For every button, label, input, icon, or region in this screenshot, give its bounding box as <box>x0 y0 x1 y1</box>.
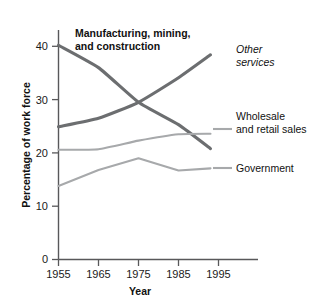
y-axis-title: Percentage of work force <box>20 82 32 208</box>
other-services-label-line2: services <box>236 56 275 68</box>
manufacturing-label-line1: Manufacturing, mining, <box>75 27 191 39</box>
x-tick-label-1985: 1985 <box>166 268 190 280</box>
y-tick-label-20: 20 <box>36 147 48 159</box>
y-tick-label-40: 40 <box>36 40 48 52</box>
y-tick-label-30: 30 <box>36 94 48 106</box>
series-line-other-services <box>59 55 211 127</box>
manufacturing-label-line2: and construction <box>75 40 160 52</box>
wholesale-label-line1: Wholesale <box>236 110 285 122</box>
chart-canvas: 0 10 20 30 40 Percentage of work force 1… <box>0 0 318 303</box>
x-axis: 1955 1965 1975 1985 1995 Year <box>46 260 258 298</box>
x-tick-label-1995: 1995 <box>206 268 230 280</box>
y-axis: 0 10 20 30 40 Percentage of work force <box>20 30 59 265</box>
series-group <box>59 45 211 186</box>
line-chart: 0 10 20 30 40 Percentage of work force 1… <box>0 0 318 303</box>
annotation-government: Government <box>236 162 294 174</box>
other-services-label-line1: Other <box>236 43 263 55</box>
y-tick-label-10: 10 <box>36 200 48 212</box>
annotation-leaders <box>213 129 232 168</box>
x-axis-title: Year <box>129 285 151 297</box>
wholesale-label-line2: and retail sales <box>236 123 307 135</box>
x-tick-label-1955: 1955 <box>46 268 70 280</box>
y-tick-label-0: 0 <box>42 253 48 265</box>
series-line-government <box>59 158 211 186</box>
annotation-manufacturing: Manufacturing, mining, and construction <box>75 27 191 52</box>
series-line-wholesale-and-retail-sales <box>59 134 211 150</box>
annotation-wholesale: Wholesale and retail sales <box>236 110 307 135</box>
x-tick-label-1965: 1965 <box>86 268 110 280</box>
government-label: Government <box>236 162 294 174</box>
annotation-other-services: Other services <box>236 43 275 68</box>
x-tick-label-1975: 1975 <box>126 268 150 280</box>
